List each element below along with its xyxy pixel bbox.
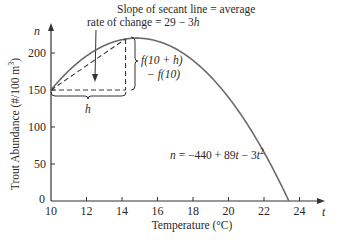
run-brace xyxy=(51,92,126,99)
curve-equation: n = −440 + 89t − 3t2 xyxy=(170,147,264,161)
secant-pointer-arrowhead-icon xyxy=(92,74,98,82)
y-tick-label: 100 xyxy=(28,120,46,134)
origin-label: 0 xyxy=(39,192,45,206)
x-tick-label: 14 xyxy=(116,204,128,218)
y-axis-arrow-icon xyxy=(48,23,54,31)
run-label: h xyxy=(85,103,91,115)
secant-triangle xyxy=(51,39,126,90)
x-axis-symbol: t xyxy=(322,205,326,219)
x-tick-label: 18 xyxy=(187,204,199,218)
y-tick-label: 150 xyxy=(28,83,46,97)
x-tick-label: 16 xyxy=(152,204,164,218)
x-tick-label: 20 xyxy=(223,204,235,218)
y-axis-symbol: n xyxy=(34,24,40,38)
y-tick-label: 50 xyxy=(34,157,46,171)
secant-note-line2: rate of change = 29 − 3h xyxy=(87,16,200,29)
x-axis-arrow-icon xyxy=(317,198,325,204)
rise-label-line1: f(10 + h) xyxy=(141,54,183,67)
x-tick-label: 12 xyxy=(81,204,93,218)
rise-brace xyxy=(131,37,138,90)
x-tick-label: 24 xyxy=(294,204,306,218)
secant-line xyxy=(51,39,126,90)
x-axis-title: Temperature (°C) xyxy=(152,219,233,232)
x-tick-label: 22 xyxy=(258,204,270,218)
rise-label-line2: − f(10) xyxy=(147,68,180,81)
y-tick-label: 200 xyxy=(28,46,46,60)
secant-pointer-arrow xyxy=(95,30,96,79)
trout-abundance-chart: Slope of secant line = average rate of c… xyxy=(0,0,338,242)
y-axis-title: Trout Abundance (#/100 m3) xyxy=(7,58,22,190)
secant-note-line1: Slope of secant line = average xyxy=(117,3,255,16)
x-tick-label: 10 xyxy=(45,204,57,218)
axes: 1012141618202224050100150200 xyxy=(28,23,325,218)
